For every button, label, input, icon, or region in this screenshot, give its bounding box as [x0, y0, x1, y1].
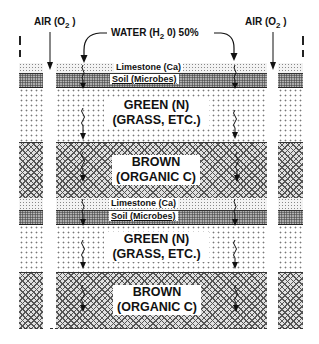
arrowhead-icon	[80, 219, 86, 226]
wavy-down-arrow-icon	[234, 65, 236, 84]
wavy-down-arrow-icon	[234, 240, 237, 264]
arrowhead-icon	[80, 305, 86, 312]
down-arrow-icon	[270, 32, 276, 70]
wavy-down-arrow-icon	[234, 110, 237, 133]
down-arrow-icon	[47, 32, 53, 70]
wavy-down-arrow-icon	[82, 152, 85, 176]
arrowhead-icon	[232, 83, 238, 89]
wavy-down-arrow-icon	[82, 285, 85, 306]
arrowhead-icon	[234, 175, 240, 182]
wavy-down-arrow-icon	[236, 152, 239, 176]
arrowhead-icon	[80, 83, 86, 89]
arrowhead-icon	[233, 305, 239, 312]
curved-down-arrow-icon	[214, 33, 238, 61]
wavy-down-arrow-icon	[235, 285, 238, 306]
curved-down-arrow-icon	[81, 33, 108, 63]
wavy-down-arrow-icon	[82, 108, 85, 134]
wavy-down-arrow-icon	[234, 199, 236, 220]
arrowhead-icon	[232, 262, 238, 269]
arrowhead-icon	[80, 262, 86, 269]
wavy-down-arrow-icon	[82, 65, 84, 84]
arrowhead-icon	[232, 219, 238, 226]
arrowhead-icon	[232, 132, 238, 139]
wavy-down-arrow-icon	[82, 199, 84, 220]
arrowhead-icon	[80, 175, 86, 182]
wavy-down-arrow-icon	[82, 240, 85, 264]
arrowhead-icon	[80, 133, 86, 140]
arrows-overlay	[0, 0, 319, 344]
